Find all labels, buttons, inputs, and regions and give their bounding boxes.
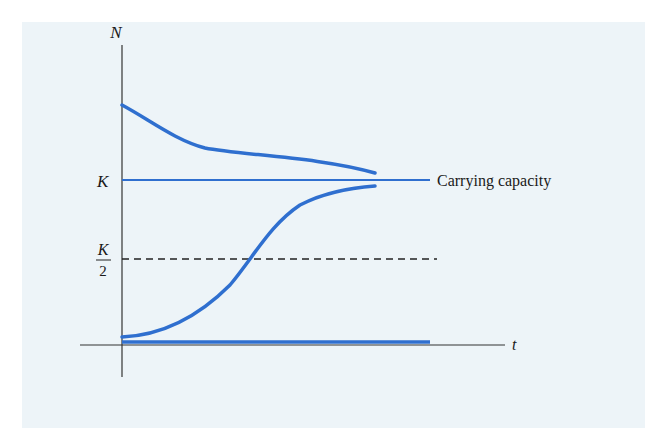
logistic-growth-chart: N t K K 2 Carrying capacity [0,0,667,441]
decay-curve [122,105,375,173]
logistic-curve [122,186,375,337]
x-axis-label: t [512,336,517,353]
k-tick-label: K [96,172,110,191]
y-axis-label: N [109,23,123,42]
k-half-denominator: 2 [99,263,107,279]
carrying-capacity-label: Carrying capacity [437,172,551,190]
k-half-numerator: K [97,241,110,258]
